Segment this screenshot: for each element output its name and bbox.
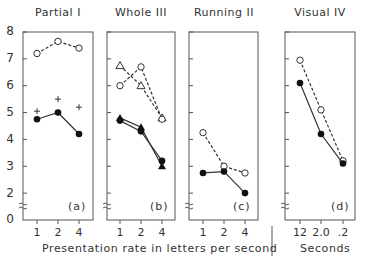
x-axis-label-seconds: Seconds — [300, 242, 350, 255]
x-tick-a-1: 1 — [27, 226, 47, 239]
y-tick-3: 3 — [2, 159, 14, 173]
chart-canvas — [0, 0, 366, 259]
x-tick-b-4: 4 — [152, 226, 172, 239]
filled-circle-marker — [34, 116, 41, 123]
filled-circle-marker — [242, 190, 249, 197]
plus-marker — [55, 96, 61, 102]
open-circle-marker — [242, 170, 248, 176]
filled-circle-marker — [159, 158, 166, 165]
x-tick-a-2: 2 — [48, 226, 68, 239]
x-tick-c-1: 1 — [193, 226, 213, 239]
y-tick-4: 4 — [2, 132, 14, 146]
plus-marker — [76, 104, 82, 110]
y-tick-8: 8 — [2, 24, 14, 38]
x-axis-label-rate: Presentation rate in letters per second — [42, 242, 277, 255]
plus-marker — [34, 108, 40, 114]
open-circle-marker — [318, 107, 324, 113]
panel-label-a: (a) — [68, 200, 86, 213]
filled-circle-marker — [340, 160, 347, 167]
panel-title-partial: Partial I — [18, 6, 98, 19]
y-tick-7: 7 — [2, 51, 14, 65]
filled-circle-marker — [117, 117, 124, 124]
filled-circle-marker — [138, 128, 145, 135]
panel-label-d: (d) — [331, 200, 350, 213]
open-circle-marker — [117, 83, 123, 89]
x-tick-d-02: .2 — [333, 226, 353, 239]
open-circle-marker — [159, 116, 165, 122]
open-circle-marker — [138, 64, 144, 70]
y-tick-2: 2 — [2, 186, 14, 200]
panel-frame — [23, 32, 93, 220]
panel-label-c: (c) — [233, 200, 251, 213]
x-tick-d-2: 2.0 — [311, 226, 331, 239]
open-circle-marker — [55, 38, 61, 44]
filled-circle-marker — [221, 168, 228, 175]
y-tick-0: 0 — [2, 212, 14, 226]
filled-circle-marker — [318, 131, 325, 138]
filled-circle-marker — [76, 131, 83, 138]
open-circle-marker — [34, 50, 40, 56]
x-tick-c-2: 2 — [214, 226, 234, 239]
x-tick-c-4: 4 — [235, 226, 255, 239]
x-tick-b-1: 1 — [110, 226, 130, 239]
open-circle-marker — [76, 45, 82, 51]
open-circle-marker — [200, 129, 206, 135]
panel-title-whole: Whole III — [101, 6, 181, 19]
series-line — [300, 83, 343, 164]
panel-label-b: (b) — [150, 200, 169, 213]
panel-title-running: Running II — [184, 6, 264, 19]
panel-frame — [285, 32, 355, 220]
filled-circle-marker — [297, 80, 304, 87]
y-tick-5: 5 — [2, 105, 14, 119]
x-tick-b-2: 2 — [131, 226, 151, 239]
series-line — [120, 67, 162, 119]
y-tick-6: 6 — [2, 78, 14, 92]
panel-title-visual: Visual IV — [280, 6, 360, 19]
open-circle-marker — [297, 57, 303, 63]
filled-circle-marker — [55, 109, 62, 116]
filled-circle-marker — [200, 170, 207, 177]
series-line — [120, 66, 162, 118]
x-tick-a-4: 4 — [69, 226, 89, 239]
x-tick-d-12: 12 — [290, 226, 310, 239]
open-triangle-marker — [116, 62, 124, 69]
